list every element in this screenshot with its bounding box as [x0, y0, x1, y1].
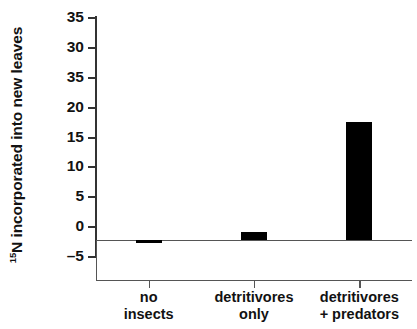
- y-axis-tick-label: 5: [38, 188, 84, 204]
- x-axis-category-label-line: + predators: [301, 306, 417, 323]
- y-axis-tick-mark: [88, 226, 96, 228]
- x-axis-category-label-line: only: [195, 306, 312, 323]
- y-axis-tick-label: 15: [38, 129, 84, 145]
- y-axis-tick-mark: [88, 166, 96, 168]
- x-axis-category-label: detritivoresonly: [195, 289, 312, 323]
- y-axis-tick-label: 20: [38, 99, 84, 115]
- y-axis-tick-mark: [88, 17, 96, 19]
- y-axis-tick-label: 35: [38, 9, 84, 25]
- y-axis-tick-label: –5: [38, 248, 84, 264]
- y-axis-title-main: N incorporated into new leaves: [8, 27, 25, 253]
- bar: [241, 232, 267, 240]
- x-axis-category-label-line: detritivores: [301, 289, 417, 306]
- bar-chart-figure: 15N incorporated into new leaves 3530352…: [0, 0, 417, 329]
- x-axis-category-label-line: no: [90, 289, 207, 306]
- plot-area: [96, 17, 412, 256]
- y-axis-tick-mark: [88, 47, 96, 49]
- y-axis-tick-mark: [88, 77, 96, 79]
- bar: [346, 122, 372, 240]
- y-axis-tick-label: 10: [38, 158, 84, 174]
- x-axis-category-labels: noinsectsdetritivoresonlydetritivores+ p…: [96, 289, 412, 329]
- y-axis-tick-mark: [88, 137, 96, 139]
- y-axis-tick-mark: [88, 256, 96, 258]
- y-axis-tick-label: 30: [38, 39, 84, 55]
- x-axis-tick-mark: [149, 281, 150, 288]
- y-axis-title-text: 15N incorporated into new leaves: [8, 27, 26, 264]
- y-axis-title: 15N incorporated into new leaves: [0, 0, 34, 290]
- y-axis-title-superscript: 15: [7, 253, 18, 263]
- x-axis-tick-mark: [254, 281, 255, 288]
- x-axis-category-label-line: insects: [90, 306, 207, 323]
- x-axis-left-cap: [96, 240, 97, 281]
- y-axis-tick-mark: [88, 107, 96, 109]
- y-axis-tick-label: 35: [38, 69, 84, 85]
- x-axis-tick-mark: [359, 281, 360, 288]
- y-axis-tick-label: 0: [38, 218, 84, 234]
- x-axis-category-label-line: detritivores: [195, 289, 312, 306]
- x-axis-category-label: noinsects: [90, 289, 207, 323]
- y-axis-tick-mark: [88, 196, 96, 198]
- y-axis-tick-labels: 35303520151050–5: [32, 0, 84, 290]
- x-axis-category-label: detritivores+ predators: [301, 289, 417, 323]
- bar: [136, 240, 162, 243]
